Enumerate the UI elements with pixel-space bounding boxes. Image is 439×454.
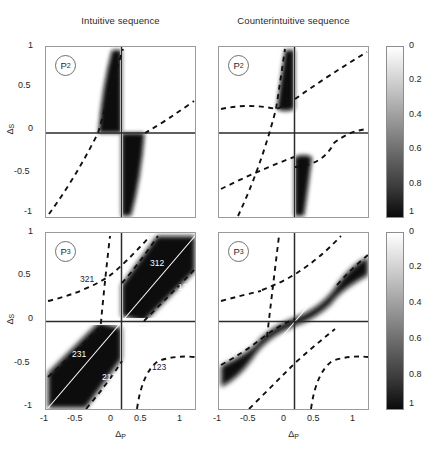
- colorbar-top-tick-0: 0: [409, 40, 414, 50]
- panel-badge-p3-intuitive: P3: [55, 241, 76, 262]
- xaxis-label-right: ΔP: [218, 429, 369, 440]
- region-label-312: 312: [150, 258, 164, 268]
- xtick-left-m1: -1: [40, 413, 48, 423]
- dashed-curve-lower-left: [221, 157, 294, 189]
- badge-subscript: 2: [240, 62, 244, 69]
- yaxis-label-subscript: S: [8, 124, 15, 129]
- panel-p3-counterintuitive: P3: [218, 232, 369, 410]
- xtick-left-05: 0.5: [134, 413, 147, 423]
- yaxis-label-delta: Δ: [5, 319, 15, 325]
- xaxis-label-subscript: P: [121, 433, 126, 440]
- yaxis-label-subscript: S: [8, 314, 15, 319]
- panel-badge-p2-intuitive: P2: [55, 55, 76, 76]
- colorbar-bottom-tick-1: 1: [409, 398, 414, 408]
- colorbar-bottom: [386, 232, 404, 410]
- xtick-left-m05: -0.5: [67, 413, 83, 423]
- badge-subscript: 3: [240, 248, 244, 255]
- panel-badge-p2-counterintuitive: P2: [228, 55, 249, 76]
- colorbar-bottom-tick-06: 0.6: [409, 333, 422, 343]
- ytick-bot-m1: -1: [24, 400, 32, 410]
- yaxis-label-top: ΔS: [5, 118, 16, 140]
- colorbar-top: [386, 46, 404, 218]
- dark-region-lower: [122, 133, 145, 216]
- region-label-213: 213: [102, 372, 116, 382]
- dashed-curve-lower-right: [311, 357, 368, 410]
- colorbar-bottom-tick-08: 0.8: [409, 369, 422, 379]
- colorbar-top-tick-04: 0.4: [409, 109, 422, 119]
- xtick-right-m1: -1: [213, 413, 221, 423]
- badge-subscript: 3: [67, 248, 71, 255]
- ytick-top-0: 0: [28, 123, 33, 133]
- dark-region-upper: [277, 50, 295, 111]
- region-label-321: 321: [80, 274, 94, 284]
- ytick-bot-1: 1: [28, 226, 33, 236]
- yaxis-label-bottom: ΔS: [5, 308, 16, 330]
- xtick-right-0: 0: [281, 413, 286, 423]
- panel-p2-counterintuitive: P2: [218, 46, 369, 218]
- ytick-top-05: 0.5: [18, 80, 31, 90]
- ytick-top-1: 1: [28, 40, 33, 50]
- region-label-123: 123: [152, 362, 166, 372]
- ytick-bot-0: 0: [28, 313, 33, 323]
- xaxis-label-left: ΔP: [45, 429, 196, 440]
- colorbar-bottom-tick-04: 0.4: [409, 297, 422, 307]
- region-label-132: 132: [178, 282, 192, 292]
- badge-subscript: 2: [67, 62, 71, 69]
- xtick-right-1: 1: [350, 413, 355, 423]
- colorbar-top-tick-06: 0.6: [409, 143, 422, 153]
- region-label-231: 231: [72, 349, 86, 359]
- figure-root: Intuitive sequence Counterintuitive sequ…: [0, 0, 439, 454]
- dashed-curve-shallow-upper-left: [221, 291, 261, 301]
- ytick-top-m05: -0.5: [14, 166, 30, 176]
- column-title-intuitive: Intuitive sequence: [45, 15, 196, 26]
- xaxis-label-subscript: P: [294, 433, 299, 440]
- panel-badge-p3-counterintuitive: P3: [228, 241, 249, 262]
- dashed-curve-right: [145, 101, 194, 133]
- xtick-left-1: 1: [177, 413, 182, 423]
- ytick-top-m1: -1: [24, 206, 32, 216]
- colorbar-top-tick-1: 1: [409, 206, 414, 216]
- colorbar-bottom-tick-02: 0.2: [409, 261, 422, 271]
- panel-p3-intuitive: P3 321 312 132 231 213 123: [45, 232, 196, 410]
- panel-p2-intuitive: P2: [45, 46, 196, 218]
- xtick-left-0: 0: [108, 413, 113, 423]
- colorbar-top-tick-02: 0.2: [409, 74, 422, 84]
- colorbar-top-tick-08: 0.8: [409, 178, 422, 188]
- ytick-bot-05: 0.5: [18, 269, 31, 279]
- xtick-right-m05: -0.5: [240, 413, 256, 423]
- dark-region-lower: [295, 155, 313, 216]
- yaxis-label-delta: Δ: [5, 129, 15, 135]
- dashed-curve-upper-right: [295, 52, 367, 99]
- ytick-bot-m05: -0.5: [14, 357, 30, 367]
- xtick-right-05: 0.5: [307, 413, 320, 423]
- column-title-counterintuitive: Counterintuitive sequence: [218, 15, 369, 26]
- colorbar-bottom-tick-0: 0: [409, 226, 414, 236]
